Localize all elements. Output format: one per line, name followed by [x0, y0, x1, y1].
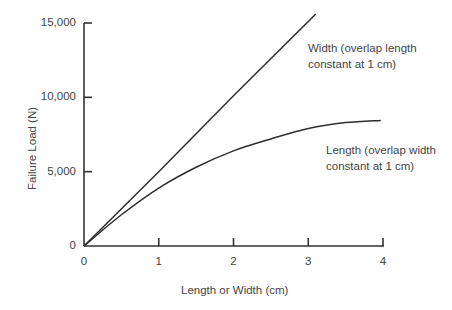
- x-tick-label: 3: [298, 255, 318, 267]
- y-tick-label: 10,000: [16, 90, 76, 102]
- width-series-label: Width (overlap length constant at 1 cm): [308, 40, 417, 72]
- width-label-line1: Width (overlap length: [308, 40, 417, 56]
- width-series-line: [84, 14, 316, 246]
- length-series-curve: [84, 120, 381, 246]
- length-series-label: Length (overlap width constant at 1 cm): [326, 142, 436, 174]
- width-label-line2: constant at 1 cm): [308, 56, 417, 72]
- y-tick-label: 15,000: [16, 16, 76, 28]
- x-tick-label: 4: [373, 255, 393, 267]
- y-tick-label: 5,000: [16, 165, 76, 177]
- y-tick-label: 0: [16, 239, 76, 251]
- x-tick-label: 0: [74, 255, 94, 267]
- y-axis-label: Failure Load (N): [26, 107, 38, 190]
- length-label-line2: constant at 1 cm): [326, 158, 436, 174]
- x-tick-label: 2: [224, 255, 244, 267]
- length-label-line1: Length (overlap width: [326, 142, 436, 158]
- x-tick-label: 1: [149, 255, 169, 267]
- x-axis-label: Length or Width (cm): [181, 284, 288, 296]
